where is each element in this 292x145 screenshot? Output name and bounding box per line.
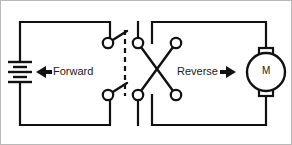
forward-label: Forward xyxy=(53,66,93,77)
circuit-diagram xyxy=(0,0,292,145)
terminal-upper-inner[interactable] xyxy=(133,38,143,48)
switch-cross-links xyxy=(138,43,176,95)
terminal-lower-inner[interactable] xyxy=(133,90,143,100)
reverse-arrow-icon xyxy=(220,66,236,78)
battery-symbol xyxy=(8,62,32,82)
diagram-page: Forward Reverse M xyxy=(0,0,292,145)
right-loop-wire-top xyxy=(152,22,266,53)
terminal-left-bottom[interactable] xyxy=(103,90,113,100)
forward-arrow-shaft xyxy=(45,70,52,74)
terminal-left-top[interactable] xyxy=(103,38,113,48)
motor-label: M xyxy=(262,66,270,76)
left-loop-wire xyxy=(20,22,110,62)
forward-arrow-icon xyxy=(36,66,52,78)
terminal-upper-outer[interactable] xyxy=(171,38,181,48)
left-loop-wire-lower xyxy=(20,84,110,125)
reverse-label: Reverse xyxy=(177,66,218,77)
reverse-arrow-shaft xyxy=(220,70,227,74)
reverse-arrowhead xyxy=(226,66,236,78)
right-loop-wire-bottom xyxy=(152,91,266,125)
forward-arrowhead xyxy=(36,66,46,78)
terminal-lower-outer[interactable] xyxy=(171,90,181,100)
